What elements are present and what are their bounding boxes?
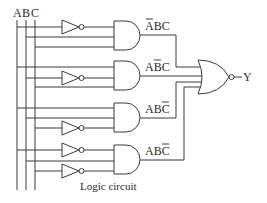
- nor-gate-icon: [198, 60, 229, 94]
- inversion-bubble-icon: [229, 75, 234, 80]
- and-gate-4-group: ABC: [17, 87, 202, 178]
- input-label-c: C: [31, 6, 39, 20]
- not-gate-icon: [62, 71, 79, 85]
- and-gate-3-group: ABC: [17, 82, 204, 135]
- and-gate-icon: [114, 61, 140, 90]
- not-gate-icon: [62, 143, 79, 157]
- and-gate-1-group: ABC: [17, 19, 202, 67]
- and-gate-2-label: ABC: [145, 60, 170, 74]
- diagram-caption: Logic circuit: [80, 180, 137, 192]
- and-gate-1-label: ABC: [145, 19, 170, 33]
- input-buses: [17, 20, 35, 190]
- logic-circuit-diagram: A B C ABC ABC: [0, 0, 267, 203]
- input-label-b: B: [22, 6, 30, 20]
- input-label-a: A: [13, 6, 22, 20]
- and-gate-icon: [114, 103, 140, 132]
- and-gate-3-label: ABC: [145, 102, 170, 116]
- not-gate-icon: [62, 121, 79, 135]
- not-gate-icon: [62, 20, 79, 34]
- and-gate-icon: [114, 21, 140, 50]
- and-gate-4-label: ABC: [145, 144, 170, 158]
- output-label-y: Y: [243, 70, 252, 84]
- and-gate-icon: [114, 145, 140, 174]
- not-gate-icon: [62, 164, 79, 178]
- nor-gate-group: Y: [198, 60, 252, 94]
